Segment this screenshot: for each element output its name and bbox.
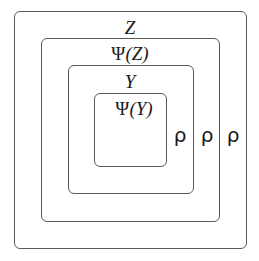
psi-z-argument: (Z) [125,43,148,64]
label-z: Z [125,18,136,37]
psi-symbol: Ψ [111,43,125,64]
rho-label-inner: ρ [174,125,187,145]
rho-label-outer: ρ [227,125,240,145]
label-y: Y [125,72,136,91]
label-psi-z: Ψ(Z) [111,44,148,63]
psi-y-argument: (Y) [129,98,152,119]
rho-label-middle: ρ [201,125,214,145]
psi-symbol: Ψ [115,98,129,119]
label-psi-y: Ψ(Y) [115,99,152,118]
